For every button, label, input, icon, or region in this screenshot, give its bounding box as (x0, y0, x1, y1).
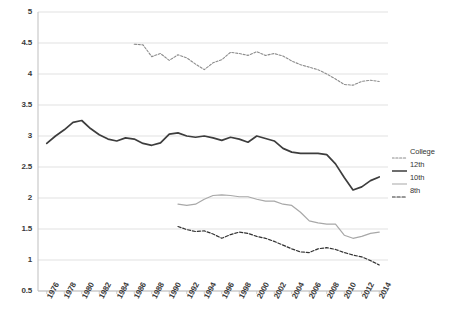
legend-item-8th[interactable]: 8th (392, 185, 454, 196)
y-tick-label: 0.5 (6, 286, 32, 295)
legend-swatch-icon (392, 187, 407, 195)
series-line-college (134, 44, 379, 85)
legend-label: College (410, 147, 435, 156)
series-line-12th (47, 121, 380, 190)
y-tick-label: 1 (6, 255, 32, 264)
legend-swatch-icon (392, 161, 407, 169)
legend-item-12th[interactable]: 12th (392, 159, 454, 170)
y-tick-label: 3 (6, 131, 32, 140)
legend-label: 12th (410, 160, 424, 169)
legend-label: 8th (410, 186, 420, 195)
y-tick-label: 2 (6, 193, 32, 202)
series-line-8th (178, 227, 379, 265)
legend-item-college[interactable]: College (392, 146, 454, 157)
y-tick-label: 3.5 (6, 100, 32, 109)
line-chart: 0.511.522.533.544.55 1976197819801982198… (0, 0, 455, 332)
legend-item-10th[interactable]: 10th (392, 172, 454, 183)
legend-label: 10th (410, 173, 424, 182)
y-tick-label: 1.5 (6, 224, 32, 233)
chart-legend: College12th10th8th (392, 146, 454, 198)
y-tick-label: 4.5 (6, 38, 32, 47)
legend-swatch-icon (392, 174, 407, 182)
legend-swatch-icon (392, 148, 407, 156)
y-tick-label: 4 (6, 69, 32, 78)
y-tick-label: 5 (6, 7, 32, 16)
y-tick-label: 2.5 (6, 162, 32, 171)
data-series (47, 44, 380, 265)
